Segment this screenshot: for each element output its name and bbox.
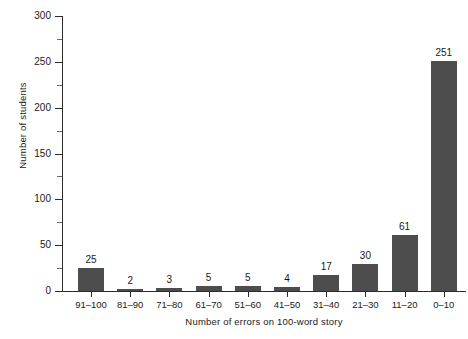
y-tick-label: 200 xyxy=(0,102,51,113)
bar xyxy=(156,288,182,291)
x-tick xyxy=(287,291,288,297)
x-tick xyxy=(405,291,406,297)
y-tick-label: 0 xyxy=(0,285,51,296)
bar xyxy=(392,235,418,291)
y-tick-major xyxy=(55,16,62,17)
y-axis-title: Number of students xyxy=(17,46,28,206)
y-tick-minor xyxy=(57,268,62,269)
x-axis-title: Number of errors on 100-word story xyxy=(62,316,466,327)
bar-value-label: 4 xyxy=(261,273,313,284)
bar-value-label: 25 xyxy=(65,254,117,265)
x-tick xyxy=(248,291,249,297)
x-tick-label: 0–10 xyxy=(418,299,468,310)
bar xyxy=(313,275,339,291)
y-tick-minor xyxy=(57,131,62,132)
x-tick xyxy=(209,291,210,297)
y-tick-label: 100 xyxy=(0,193,51,204)
bar xyxy=(117,289,143,291)
x-tick xyxy=(91,291,92,297)
y-tick-major xyxy=(55,154,62,155)
y-tick-major xyxy=(55,291,62,292)
x-tick xyxy=(444,291,445,297)
bar-value-label: 30 xyxy=(339,250,391,261)
y-tick-major xyxy=(55,108,62,109)
y-tick-label: 300 xyxy=(0,10,51,21)
bar xyxy=(274,287,300,291)
x-tick xyxy=(169,291,170,297)
y-axis-line xyxy=(62,16,63,292)
x-tick xyxy=(365,291,366,297)
y-tick-major xyxy=(55,245,62,246)
y-tick-minor xyxy=(57,222,62,223)
y-tick-minor xyxy=(57,176,62,177)
bar xyxy=(196,286,222,291)
x-tick xyxy=(326,291,327,297)
y-tick-label: 50 xyxy=(0,239,51,250)
y-tick-label: 250 xyxy=(0,56,51,67)
bar xyxy=(431,61,457,291)
bar-chart: Number of students 050100150200250300 91… xyxy=(0,0,468,339)
bar xyxy=(235,286,261,291)
y-tick-minor xyxy=(57,85,62,86)
x-tick xyxy=(130,291,131,297)
bar-value-label: 251 xyxy=(418,47,468,58)
y-tick-label: 150 xyxy=(0,148,51,159)
y-tick-major xyxy=(55,199,62,200)
bar xyxy=(78,268,104,291)
bar xyxy=(352,264,378,292)
bar-value-label: 17 xyxy=(300,261,352,272)
bar-value-label: 61 xyxy=(379,221,431,232)
y-tick-major xyxy=(55,62,62,63)
y-tick-minor xyxy=(57,39,62,40)
